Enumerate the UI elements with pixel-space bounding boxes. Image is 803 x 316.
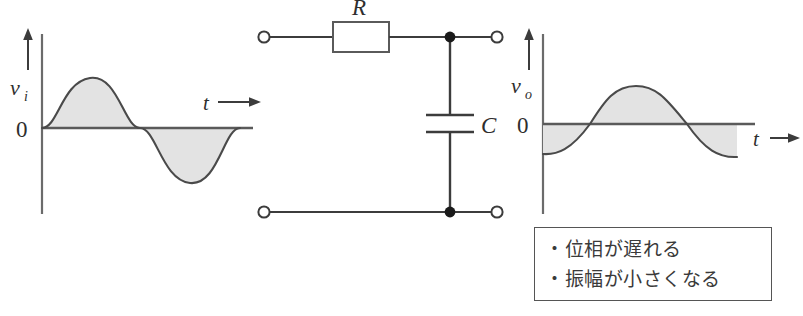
input-y-axis-arrow [23,28,33,70]
output-wave-fill-right-negative [687,124,737,157]
input-origin-label: 0 [16,117,28,142]
output-t-axis-arrow [770,133,800,143]
output-t-label: t [753,127,760,151]
input-wave-fill-negative [140,128,240,183]
input-v-label: v [10,75,20,100]
output-graph-panel: t v o 0 [505,0,803,230]
notes-box: ・位相が遅れる ・振幅が小さくなる [534,227,772,301]
figure-rc-low-pass-filter: t v i 0 R C [0,0,803,316]
terminal-input-top[interactable] [258,31,269,42]
node-bottom-junction [445,207,456,218]
terminal-output-top[interactable] [491,31,502,42]
notes-panel: ・位相が遅れる ・振幅が小さくなる [534,227,772,301]
input-wave-fill-positive [42,78,140,128]
input-v-subscript: i [24,89,28,104]
output-v-subscript: o [525,87,532,102]
input-graph-panel: t v i 0 [0,0,270,230]
input-t-label: t [203,91,210,115]
resistor-label: R [351,0,366,20]
resistor-body [333,22,389,52]
output-y-axis-arrow [524,28,534,70]
note-line-phase-lag: ・位相が遅れる [545,234,767,264]
circuit-panel: R C [248,0,516,230]
node-top-junction [445,32,456,43]
output-wave-fill-positive [590,86,687,124]
output-origin-label: 0 [517,113,529,138]
terminal-output-bottom[interactable] [491,206,502,217]
output-wave-fill-left-negative [543,124,590,154]
capacitor-label: C [481,113,497,138]
note-line-amplitude-reduction: ・振幅が小さくなる [545,264,767,294]
terminal-input-bottom[interactable] [258,206,269,217]
output-v-label: v [511,73,521,98]
